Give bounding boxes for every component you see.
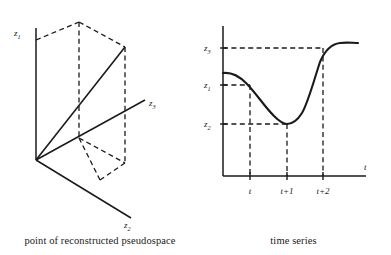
y-label-z3: z3 bbox=[203, 43, 211, 55]
y-label-z2: z2 bbox=[203, 119, 211, 131]
pseudospace-diagram: z1 z3 z2 bbox=[0, 0, 200, 232]
timeseries-chart: z3 z1 z2 t t+1 t+2 t bbox=[196, 0, 391, 232]
pseudospace-axes bbox=[36, 28, 145, 218]
z1-axis-label: z1 bbox=[13, 28, 21, 40]
pseudospace-caption: point of reconstructed pseudospace bbox=[0, 235, 200, 247]
x-tick-label-t-plus-2: t+2 bbox=[316, 186, 330, 196]
dashed-base-front-edge bbox=[100, 163, 125, 180]
timeseries-caption: time series bbox=[196, 235, 391, 247]
pseudospace-point-ray bbox=[36, 47, 125, 160]
x-tick-label-t: t bbox=[249, 186, 252, 196]
timeseries-panel: z3 z1 z2 t t+1 t+2 t time series bbox=[196, 0, 391, 255]
y-label-z1: z1 bbox=[203, 80, 211, 92]
figure-root: z1 z3 z2 point of reconstructed pseudosp… bbox=[0, 0, 391, 255]
pseudospace-panel: z1 z3 z2 point of reconstructed pseudosp… bbox=[0, 0, 200, 255]
construction-box-dashed bbox=[36, 22, 125, 180]
x-axis-label: t bbox=[364, 162, 367, 172]
z2-axis-label: z2 bbox=[123, 220, 131, 232]
dashed-top-right-edge bbox=[79, 22, 125, 47]
dashed-base-back-edge bbox=[79, 138, 125, 163]
timeseries-curve bbox=[223, 43, 358, 124]
x-tick-label-t-plus-1: t+1 bbox=[280, 186, 293, 196]
guide-lines-dashed bbox=[223, 48, 323, 176]
z3-axis bbox=[36, 100, 145, 160]
dashed-top-left-edge bbox=[36, 22, 79, 40]
z3-axis-label: z3 bbox=[148, 98, 156, 110]
